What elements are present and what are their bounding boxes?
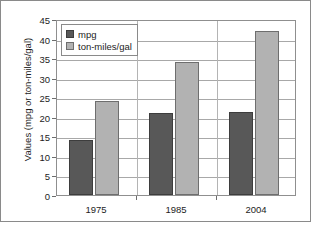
bar-1985-mpg[interactable] [149, 113, 173, 195]
bar-2004-mpg[interactable] [229, 112, 253, 195]
x-axis-tick-mark [216, 196, 217, 200]
legend-swatch-icon-mpg [66, 30, 74, 38]
legend-label-ton-miles-per-gal: ton-miles/gal [78, 41, 132, 52]
bar-1985-ton-miles-gal[interactable] [175, 62, 199, 195]
x-axis: 197519852004 [56, 196, 296, 222]
x-axis-tick-label-1975: 1975 [66, 204, 126, 215]
legend-label-mpg: mpg [78, 29, 96, 40]
x-axis-tick-label-1985: 1985 [146, 204, 206, 215]
legend-swatch-icon-ton-miles-per-gal [66, 42, 74, 50]
legend-item-mpg[interactable]: mpg [66, 28, 132, 40]
bar-1975-mpg[interactable] [69, 140, 93, 195]
bar-1975-ton-miles-gal[interactable] [95, 101, 119, 195]
x-axis-tick-label-2004: 2004 [226, 204, 286, 215]
bar-2004-ton-miles-gal[interactable] [255, 31, 279, 195]
category-separator [217, 21, 218, 195]
legend-item-ton-miles-per-gal[interactable]: ton-miles/gal [66, 40, 132, 52]
y-axis-tick-marks [0, 20, 56, 196]
x-axis-tick-mark [136, 196, 137, 200]
chart-legend: mpg ton-miles/gal [61, 24, 138, 56]
chart-figure: Values (mpg or ton-miles/gal) 4540353025… [0, 0, 312, 228]
